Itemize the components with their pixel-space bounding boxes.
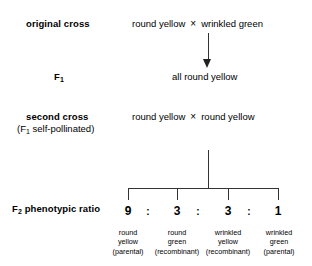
phenotype-trait-1: wrinkled xyxy=(255,228,303,237)
ratio-separator-3: : xyxy=(242,206,256,217)
second-parent-a-phenotype: round yellow xyxy=(132,111,185,122)
phenotype-origin: (recombinant) xyxy=(203,247,253,256)
bracket-drop-2 xyxy=(177,188,178,200)
phenotype-description-4: wrinkled green (parental) xyxy=(255,228,303,256)
phenotype-origin: (recombinant) xyxy=(152,247,202,256)
parent-a-phenotype: round yellow xyxy=(132,18,185,29)
ratio-count-2: 3 xyxy=(165,204,189,218)
original-cross-parents: round yellow×wrinkled green xyxy=(132,18,263,29)
f2-label-subscript: 2 xyxy=(18,208,22,215)
f2-label-rest: phenotypic ratio xyxy=(22,203,100,214)
f1-label-subscript: 1 xyxy=(60,76,64,83)
cross-operator-icon: × xyxy=(185,18,201,29)
bracket-drop-3 xyxy=(228,188,229,200)
original-cross-label: original cross xyxy=(26,18,90,29)
genetics-cross-diagram: original cross F1 second cross (F1 self-… xyxy=(0,0,312,266)
bracket-stem-line xyxy=(208,150,209,188)
cross-operator-icon: × xyxy=(185,111,201,122)
second-cross-label: second cross xyxy=(26,111,88,122)
ratio-separator-1: : xyxy=(141,206,155,217)
phenotype-origin: (parental) xyxy=(106,247,150,256)
bracket-drop-1 xyxy=(128,188,129,200)
phenotype-trait-2: yellow xyxy=(106,237,150,246)
second-cross-parents: round yellow×round yellow xyxy=(132,111,255,122)
ratio-count-1: 9 xyxy=(116,204,140,218)
phenotype-description-1: round yellow (parental) xyxy=(106,228,150,256)
phenotype-trait-1: round xyxy=(152,228,202,237)
f2-ratio-label: F2 phenotypic ratio xyxy=(12,203,100,214)
phenotype-trait-2: green xyxy=(152,237,202,246)
phenotype-origin: (parental) xyxy=(255,247,303,256)
parent-b-phenotype: wrinkled green xyxy=(201,18,263,29)
down-arrow-shaft xyxy=(208,33,209,61)
ratio-separator-2: : xyxy=(191,206,205,217)
phenotype-description-3: wrinkled yellow (recombinant) xyxy=(203,228,253,256)
phenotype-trait-2: green xyxy=(255,237,303,246)
bracket-horizontal-bar xyxy=(128,188,279,189)
phenotype-trait-2: yellow xyxy=(203,237,253,246)
f1-label: F1 xyxy=(54,71,64,82)
second-cross-sublabel-prefix: (F xyxy=(17,123,26,134)
bracket-drop-4 xyxy=(278,188,279,200)
ratio-count-4: 1 xyxy=(266,204,290,218)
phenotype-trait-1: wrinkled xyxy=(203,228,253,237)
ratio-count-3: 3 xyxy=(216,204,240,218)
down-arrow-icon xyxy=(203,59,211,68)
second-cross-sublabel-suffix: self-pollinated) xyxy=(30,123,94,134)
phenotype-description-2: round green (recombinant) xyxy=(152,228,202,256)
second-cross-sublabel-subscript: 1 xyxy=(26,128,30,135)
second-cross-sublabel: (F1 self-pollinated) xyxy=(17,123,94,134)
phenotype-trait-1: round xyxy=(106,228,150,237)
second-parent-b-phenotype: round yellow xyxy=(201,111,254,122)
f1-offspring-phenotype: all round yellow xyxy=(172,71,237,82)
